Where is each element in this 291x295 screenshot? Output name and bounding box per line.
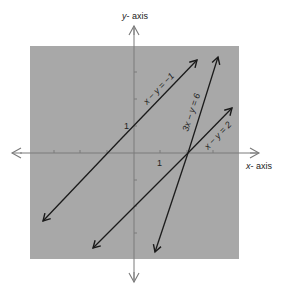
x-axis-label: x- axis bbox=[245, 161, 273, 171]
coordinate-plane-figure: 1 1 y- axis x- axis x − y = −1 3x − y = … bbox=[0, 0, 291, 295]
x-tick-label-1: 1 bbox=[157, 158, 162, 168]
y-tick-label-1: 1 bbox=[124, 121, 129, 131]
y-axis-label: y- axis bbox=[121, 11, 149, 21]
